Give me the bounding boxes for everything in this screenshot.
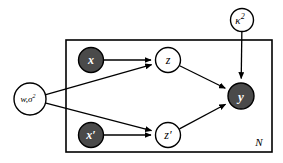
- plate-label: N: [254, 136, 263, 148]
- edge-kappa2-to-y: [241, 32, 242, 79]
- graphical-model-svg: N κ2w,σ2xx′zz′y: [0, 0, 283, 163]
- node-label-x: x: [87, 53, 94, 67]
- edge-z-to-y: [180, 66, 226, 89]
- node-label-z_prime: z′: [163, 128, 172, 142]
- node-w_sigma2[interactable]: w,σ2: [14, 83, 46, 115]
- node-kappa2[interactable]: κ2: [231, 9, 254, 32]
- node-label-y: y: [236, 89, 244, 104]
- edge-group: [46, 32, 242, 135]
- node-z[interactable]: z: [156, 48, 181, 73]
- node-superscript-w_sigma2: 2: [33, 93, 36, 99]
- node-label-z: z: [165, 53, 171, 67]
- edge-z_prime-to-y: [179, 104, 225, 129]
- node-x_prime[interactable]: x′: [79, 123, 104, 148]
- node-superscript-kappa2: 2: [241, 12, 245, 21]
- diagram-canvas: N κ2w,σ2xx′zz′y: [0, 0, 283, 163]
- node-x[interactable]: x: [79, 48, 104, 73]
- node-label-x_prime: x′: [85, 128, 95, 142]
- node-y[interactable]: y: [228, 83, 254, 109]
- node-z_prime[interactable]: z′: [156, 123, 181, 148]
